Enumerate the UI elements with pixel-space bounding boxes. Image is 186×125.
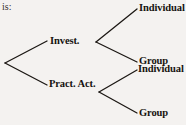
leaf-label-invest-individual: Individual	[139, 2, 185, 13]
prefix-text: is:	[2, 1, 11, 12]
leaf-label-pract-individual: Individual	[138, 63, 184, 74]
tree-diagram: is: Invest. Pract. Act. Individual Group…	[0, 0, 186, 125]
edge-invest-to-individual	[96, 9, 137, 42]
edge-root-to-invest	[5, 41, 47, 63]
edge-invest-to-group	[96, 42, 137, 62]
edge-root-to-pract	[5, 63, 47, 85]
node-label-practical-activity: Pract. Act.	[49, 78, 95, 89]
edge-pract-to-individual	[99, 70, 137, 92]
node-label-invest: Invest.	[50, 35, 79, 46]
leaf-label-pract-group: Group	[139, 107, 168, 118]
edge-pract-to-group	[99, 92, 137, 113]
